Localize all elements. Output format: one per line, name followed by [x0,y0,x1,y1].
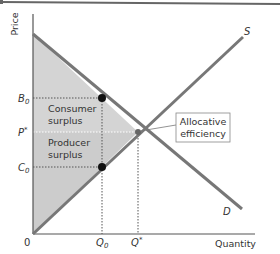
q0-label: Q0 [96,237,109,250]
producer-surplus-label-1: Producer [48,137,90,148]
b0-label: B0 [18,93,30,106]
consumer-surplus-label-2: surplus [48,115,83,126]
annotation-line1: Allocative [180,116,227,127]
equilibrium-point [135,129,141,135]
b0-point [98,94,106,102]
p-star-label: P* [18,126,28,138]
c0-point [98,163,106,171]
origin-label: 0 [24,237,30,248]
surplus-diagram: Allocative efficiency Price Quantity 0 B… [0,0,280,254]
x-axis-label: Quantity [215,238,256,249]
c0-label: C0 [18,162,30,175]
y-axis-label: Price [9,12,20,35]
producer-surplus-label-2: surplus [48,149,83,160]
demand-label: D [223,206,231,217]
supply-label: S [244,26,251,37]
annotation-line2: efficiency [180,128,226,139]
corner-mark [0,0,3,4]
consumer-surplus-label-1: Consumer [48,103,97,114]
q-star-label: Q* [131,236,143,248]
top-rule [0,2,280,4]
